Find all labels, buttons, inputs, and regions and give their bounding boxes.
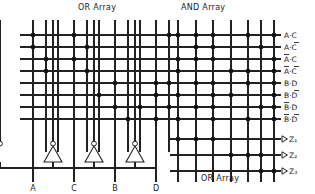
or-array-dot-10 xyxy=(154,81,158,85)
and-array-dot-7 xyxy=(259,45,263,49)
and-array-dot-16 xyxy=(194,81,198,85)
and-array-dot-19 xyxy=(272,81,276,85)
and-array-dot-30 xyxy=(246,117,250,121)
input-label-B: B xyxy=(112,184,118,193)
pla-diagram: ACBDA·CA·CA·CA·CB·DB·DB·DB·DZ₁Z₂Z₃ OR Ar… xyxy=(0,0,315,194)
or-array-dot-2 xyxy=(167,33,171,37)
pla-schematic-canvas: ACBDA·CA·CA·CA·CB·DB·DB·DB·DZ₁Z₂Z₃ xyxy=(0,0,315,194)
and-array-dot-14 xyxy=(246,69,250,73)
and-array-dot-4 xyxy=(272,33,276,37)
and-array-dot-10 xyxy=(211,57,215,61)
inverter-bubble-C xyxy=(92,141,97,146)
or-array-dot-7 xyxy=(44,69,48,73)
and-array-dot-20 xyxy=(176,93,180,97)
or-array-dot-9 xyxy=(113,81,117,85)
and-array-dot-31 xyxy=(272,117,276,121)
and-array-dot-2 xyxy=(211,33,215,37)
and-array-dot-1 xyxy=(194,33,198,37)
output-buffer-0 xyxy=(282,136,287,142)
or-array-dot-13 xyxy=(154,93,158,97)
header-or-array-top: OR Array xyxy=(78,3,116,12)
and-array-dot-23 xyxy=(272,93,276,97)
and-array-dot-28 xyxy=(176,117,180,121)
inverter-triangle-C xyxy=(85,146,103,162)
input-label-C: C xyxy=(71,184,77,193)
or-array-dot-12 xyxy=(97,93,101,97)
and-array-dot-9 xyxy=(194,57,198,61)
output-label-2: Z₃ xyxy=(289,167,297,176)
product-term-label-4: B·D xyxy=(284,79,298,88)
inverter-bubble-B xyxy=(133,141,138,146)
output-label-0: Z₁ xyxy=(289,135,297,144)
product-term-label-1: A·C xyxy=(284,43,297,52)
and-array-dot-8 xyxy=(176,57,180,61)
and-array-dot-0 xyxy=(176,33,180,37)
or-array-dot-16 xyxy=(167,105,171,109)
input-label-A: A xyxy=(30,184,36,193)
input-label-D: D xyxy=(153,184,159,193)
inverter-triangle-A xyxy=(44,146,62,162)
output-label-1: Z₂ xyxy=(289,151,297,160)
or-array-dot-6 xyxy=(72,57,76,61)
and-array-dot-18 xyxy=(246,81,250,85)
or-array-out-dot-6 xyxy=(259,169,263,173)
and-array-dot-5 xyxy=(194,45,198,49)
inverter-triangle-B xyxy=(126,146,144,162)
inverter-bubble-A xyxy=(51,141,56,146)
or-array-dot-3 xyxy=(31,45,35,49)
inverter-bubble-D xyxy=(0,141,2,146)
or-array-dot-0 xyxy=(31,33,35,37)
header-and-array-top: AND Array xyxy=(181,3,225,12)
or-array-out-dot-3 xyxy=(229,153,233,157)
product-term-label-0: A·C xyxy=(284,31,297,40)
or-array-out-dot-0 xyxy=(176,137,180,141)
and-array-dot-17 xyxy=(211,81,215,85)
product-term-label-3: A·C xyxy=(284,67,297,76)
and-array-dot-27 xyxy=(272,105,276,109)
and-array-dot-12 xyxy=(176,69,180,73)
product-term-label-6: B·D xyxy=(284,103,298,112)
and-array-dot-21 xyxy=(211,93,215,97)
and-array-dot-26 xyxy=(259,105,263,109)
product-term-label-5: B·D xyxy=(284,91,298,100)
or-array-dot-1 xyxy=(72,33,76,37)
or-array-dot-5 xyxy=(44,57,48,61)
and-array-dot-13 xyxy=(229,69,233,73)
and-array-dot-6 xyxy=(211,45,215,49)
and-array-dot-15 xyxy=(272,69,276,73)
output-buffer-2 xyxy=(282,168,287,174)
product-term-label-7: B·D xyxy=(284,115,298,124)
or-array-out-dot-4 xyxy=(246,153,250,157)
and-array-dot-11 xyxy=(272,57,276,61)
or-array-dot-11 xyxy=(167,81,171,85)
or-array-out-dot-5 xyxy=(259,153,263,157)
and-array-dot-25 xyxy=(211,105,215,109)
and-array-dot-3 xyxy=(246,33,250,37)
or-array-out-dot-2 xyxy=(211,137,215,141)
output-buffer-1 xyxy=(282,152,287,158)
or-array-dot-8 xyxy=(85,69,89,73)
and-array-dot-24 xyxy=(194,105,198,109)
product-term-label-2: A·C xyxy=(284,55,297,64)
or-array-dot-18 xyxy=(154,117,158,121)
or-array-out-dot-7 xyxy=(272,169,276,173)
or-array-dot-17 xyxy=(126,117,130,121)
or-array-dot-4 xyxy=(85,45,89,49)
and-array-dot-29 xyxy=(211,117,215,121)
and-array-dot-22 xyxy=(229,93,233,97)
header-or-array-bottom: OR Array xyxy=(201,174,239,183)
or-array-dot-15 xyxy=(138,105,142,109)
or-array-dot-14 xyxy=(113,105,117,109)
or-array-out-dot-1 xyxy=(194,137,198,141)
